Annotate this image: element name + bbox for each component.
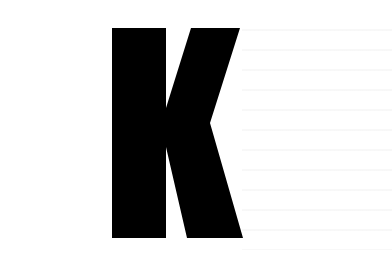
- letter-k-shape: [112, 28, 243, 238]
- letter-k-glyph: [0, 0, 392, 263]
- letter-canvas: K: [0, 0, 392, 263]
